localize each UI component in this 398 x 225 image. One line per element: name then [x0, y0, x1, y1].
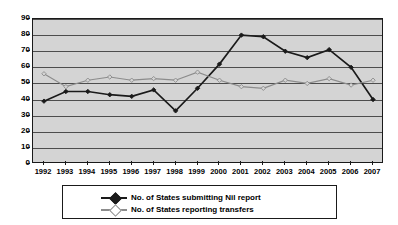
data-point [305, 55, 309, 59]
data-point [130, 94, 134, 98]
y-tick-0 [26, 163, 30, 164]
data-point [195, 70, 199, 74]
data-point [108, 93, 112, 97]
y-tick-90 [26, 18, 30, 19]
data-point [371, 78, 375, 82]
x-tick-2005 [328, 161, 329, 165]
legend-swatch-icon [101, 193, 127, 202]
series-layer [33, 19, 384, 164]
x-tick-2003 [284, 161, 285, 165]
x-tick-label-2007: 2007 [359, 168, 385, 176]
x-tick-1992 [43, 161, 44, 165]
legend-label: No. of States reporting transfers [131, 205, 254, 214]
x-tick-1999 [197, 161, 198, 165]
x-tick-1997 [153, 161, 154, 165]
series-line-0 [44, 35, 373, 111]
line-chart: 0102030405060708090 19921993199419951996… [0, 0, 398, 225]
data-point [305, 81, 309, 85]
data-point [86, 89, 90, 93]
legend-item-1: No. of States reporting transfers [101, 203, 254, 216]
y-axis: 0102030405060708090 [0, 0, 30, 181]
x-axis: 1992199319941995199619971998199920002001… [32, 165, 384, 181]
x-tick-1993 [65, 161, 66, 165]
chart-legend: No. of States submitting Nil reportNo. o… [62, 185, 337, 219]
y-tick-50 [26, 82, 30, 83]
data-point [349, 83, 353, 87]
x-tick-2001 [240, 161, 241, 165]
x-tick-2000 [218, 161, 219, 165]
y-tick-30 [26, 115, 30, 116]
data-point [217, 78, 221, 82]
data-point [151, 76, 155, 80]
x-tick-1998 [175, 161, 176, 165]
data-point [86, 78, 90, 82]
x-tick-2006 [350, 161, 351, 165]
data-point [173, 78, 177, 82]
data-point [327, 76, 331, 80]
y-tick-40 [26, 99, 30, 100]
y-tick-10 [26, 147, 30, 148]
x-tick-2004 [306, 161, 307, 165]
x-tick-1995 [109, 161, 110, 165]
x-tick-1994 [87, 161, 88, 165]
x-tick-1996 [131, 161, 132, 165]
legend-swatch-icon [101, 205, 127, 214]
data-point [283, 78, 287, 82]
plot-area [32, 18, 383, 163]
data-point [261, 86, 265, 90]
series-line-1 [44, 72, 373, 88]
y-tick-70 [26, 50, 30, 51]
x-tick-2007 [372, 161, 373, 165]
y-tick-60 [26, 66, 30, 67]
data-point [239, 84, 243, 88]
y-tick-80 [26, 34, 30, 35]
legend-label: No. of States submitting Nil report [131, 193, 261, 202]
x-tick-2002 [262, 161, 263, 165]
y-tick-20 [26, 131, 30, 132]
data-point [108, 75, 112, 79]
data-point [130, 78, 134, 82]
